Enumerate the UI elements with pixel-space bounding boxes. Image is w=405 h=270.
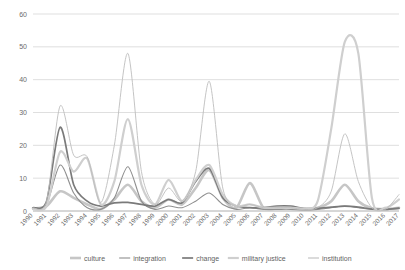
x-tick-label: 1995 <box>86 211 101 226</box>
x-axis-tick-labels: 1990199119921993199419951996199719981999… <box>19 211 400 226</box>
x-tick-label: 1996 <box>100 211 115 226</box>
series-lines <box>33 35 399 211</box>
x-tick-label: 1994 <box>73 211 88 226</box>
legend-item-culture[interactable]: culture <box>70 255 105 262</box>
x-tick-label: 1997 <box>113 211 128 226</box>
chart-legend[interactable]: cultureintegrationchangemilitary justice… <box>70 255 352 263</box>
y-tick-label: 20 <box>19 142 27 149</box>
x-tick-label: 1998 <box>127 211 142 226</box>
x-tick-label: 2002 <box>181 211 196 226</box>
x-tick-label: 2006 <box>235 211 250 226</box>
x-tick-label: 2016 <box>371 211 386 226</box>
y-tick-label: 30 <box>19 109 27 116</box>
x-tick-label: 2011 <box>304 211 319 226</box>
y-tick-label: 40 <box>19 76 27 83</box>
legend-label: integration <box>133 255 166 263</box>
x-tick-label: 1999 <box>141 211 156 226</box>
legend-label: culture <box>84 255 105 262</box>
series-line-institution <box>33 53 399 210</box>
x-tick-label: 2004 <box>208 211 223 226</box>
legend-label: change <box>196 255 219 263</box>
x-tick-label: 2012 <box>317 211 332 226</box>
x-tick-label: 1993 <box>59 211 74 226</box>
x-tick-label: 2009 <box>276 211 291 226</box>
y-tick-label: 50 <box>19 43 27 50</box>
x-tick-label: 2007 <box>249 211 264 226</box>
legend-item-military-justice[interactable]: military justice <box>228 255 286 263</box>
y-tick-label: 10 <box>19 175 27 182</box>
x-tick-label: 2005 <box>222 211 237 226</box>
x-tick-label: 2003 <box>195 211 210 226</box>
x-tick-label: 2001 <box>168 211 183 226</box>
x-tick-label: 2008 <box>263 211 278 226</box>
legend-item-institution[interactable]: institution <box>308 255 352 262</box>
x-tick-label: 1992 <box>46 211 61 226</box>
x-tick-label: 2013 <box>330 211 345 226</box>
x-tick-label: 2010 <box>290 211 305 226</box>
legend-label: institution <box>322 255 352 262</box>
y-tick-label: 60 <box>19 11 27 18</box>
x-tick-label: 2014 <box>344 211 359 226</box>
chart-canvas: 0102030405060 19901991199219931994199519… <box>0 0 405 270</box>
y-axis-tick-labels: 0102030405060 <box>19 11 27 215</box>
x-tick-label: 2015 <box>357 211 372 226</box>
x-tick-label: 1990 <box>19 211 34 226</box>
series-line-integration <box>33 165 399 210</box>
series-line-change <box>33 127 399 209</box>
x-tick-label: 2017 <box>385 211 400 226</box>
legend-label: military justice <box>242 255 286 263</box>
legend-item-change[interactable]: change <box>182 255 219 263</box>
legend-item-integration[interactable]: integration <box>119 255 166 263</box>
x-tick-label: 2000 <box>154 211 169 226</box>
line-chart: 0102030405060 19901991199219931994199519… <box>0 0 405 270</box>
x-tick-label: 1991 <box>32 211 47 226</box>
